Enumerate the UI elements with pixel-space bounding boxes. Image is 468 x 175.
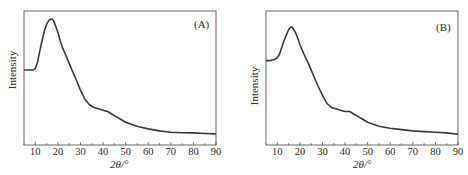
x-tick-label: 60 [138,146,158,157]
x-tick-label: 50 [116,146,136,157]
panel-a: Intensity (A) 2θ/° 102030405060708090 [0,0,234,175]
x-tick-label: 40 [93,146,113,157]
x-tick-label: 20 [48,146,68,157]
panel-b: Intensity (B) 2θ/° 102030405060708090 [234,0,468,175]
x-tick-label: 30 [312,146,332,157]
x-axis-label-a: 2θ/° [110,158,128,170]
x-tick-label: 30 [70,146,90,157]
x-tick-label: 50 [358,146,378,157]
x-tick-label: 80 [425,146,445,157]
plot-frame [24,11,216,145]
panel-tag-b: (B) [436,21,451,33]
x-tick-label: 40 [335,146,355,157]
x-axis-label-b: 2θ/° [353,158,371,170]
x-tick-label: 70 [161,146,181,157]
x-tick-label: 20 [290,146,310,157]
panel-tag-a: (A) [194,18,209,30]
x-tick-label: 90 [448,146,468,157]
x-tick-label: 90 [206,146,226,157]
x-tick-label: 70 [403,146,423,157]
y-axis-label-a: Intensity [6,46,18,94]
y-axis-label-b: Intensity [248,62,260,110]
x-tick-label: 10 [267,146,287,157]
x-tick-label: 60 [380,146,400,157]
x-tick-label: 10 [25,146,45,157]
xrd-curve [266,27,458,134]
xrd-curve [24,19,216,134]
x-tick-label: 80 [183,146,203,157]
